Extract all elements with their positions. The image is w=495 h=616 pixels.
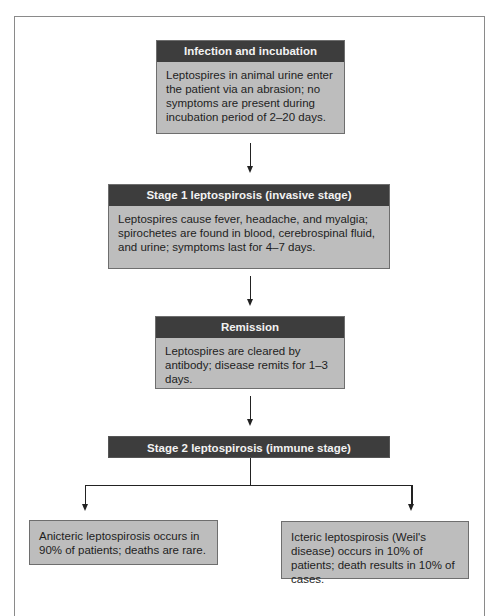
- node-description: Leptospires in animal urine enter the pa…: [157, 62, 344, 130]
- arrow-down-icon: [247, 419, 253, 426]
- node-anicteric: Anicteric leptospirosis occurs in 90% of…: [29, 520, 218, 565]
- node-description: Leptospires are cleared by antibody; dis…: [156, 338, 344, 392]
- connector-line: [411, 485, 413, 505]
- node-title: Remission: [156, 317, 344, 338]
- connector-line: [250, 276, 252, 300]
- node-description: Anicteric leptospirosis occurs in 90% of…: [30, 521, 217, 565]
- node-stage2-immune: Stage 2 leptospirosis (immune stage): [108, 436, 390, 458]
- node-title: Stage 1 leptospirosis (invasive stage): [109, 185, 389, 206]
- connector-branch-line: [85, 485, 413, 487]
- arrow-down-icon: [247, 299, 253, 306]
- arrow-down-icon: [247, 166, 253, 173]
- node-infection-incubation: Infection and incubation Leptospires in …: [156, 40, 345, 134]
- connector-line: [250, 458, 252, 485]
- node-description: Leptospires cause fever, headache, and m…: [109, 206, 389, 260]
- node-remission: Remission Leptospires are cleared by ant…: [155, 316, 345, 389]
- connector-line: [250, 396, 252, 420]
- arrow-down-icon: [408, 504, 414, 511]
- connector-line: [85, 485, 87, 505]
- connector-line: [250, 143, 252, 167]
- node-description: Icteric leptospirosis (Weil's disease) o…: [282, 522, 468, 594]
- node-icteric: Icteric leptospirosis (Weil's disease) o…: [281, 521, 469, 579]
- node-title: Infection and incubation: [157, 41, 344, 62]
- arrow-down-icon: [82, 504, 88, 511]
- node-stage1-invasive: Stage 1 leptospirosis (invasive stage) L…: [108, 184, 390, 269]
